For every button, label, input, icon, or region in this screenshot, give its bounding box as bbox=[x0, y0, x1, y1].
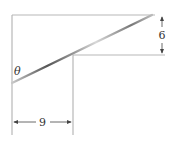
inner-corner-wall bbox=[73, 55, 165, 135]
vertical-dimension: 6 bbox=[159, 17, 166, 53]
outer-wall bbox=[12, 15, 155, 135]
vertical-dimension-label: 6 bbox=[159, 29, 166, 42]
angle-label: θ bbox=[14, 65, 21, 78]
corridor-diagram: θ 6 9 bbox=[0, 0, 176, 141]
horizontal-dimension: 9 bbox=[14, 116, 71, 129]
horizontal-dimension-label: 9 bbox=[39, 116, 46, 129]
rod bbox=[12, 15, 152, 83]
